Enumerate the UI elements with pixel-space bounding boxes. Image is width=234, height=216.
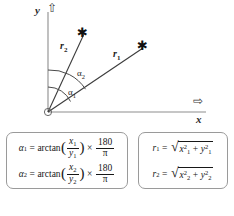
angle-formula-box: α1 = arctan ( x1 y1 ) × 180 π α2 = arcta…: [6, 132, 128, 189]
r1-term2-sub: 1: [208, 148, 211, 155]
alpha2-num-sub: 2: [73, 166, 76, 173]
r1-equals: =: [160, 143, 170, 153]
angle-alpha2-subscript: 2: [82, 73, 85, 80]
formula-alpha2: α2 = arctan ( x2 y2 ) × 180 π: [7, 161, 127, 187]
figure-canvas: y ⇧ x ⇨ r2 r1 α2 α1 ✱ ✱ α1 = arctan ( x1…: [0, 0, 234, 216]
alpha1-factor-den: π: [101, 149, 110, 159]
formula-r1: r1 = √ x21+y21: [139, 135, 227, 161]
alpha1-num-sub: 1: [73, 140, 76, 147]
ray-r1-subscript: 1: [117, 54, 121, 62]
formula-alpha1: α1 = arctan ( x1 y1 ) × 180 π: [7, 135, 127, 161]
r1-radical: √ x21+y21: [170, 141, 213, 154]
alpha1-denominator: y1: [67, 149, 78, 159]
alpha1-den-sub: 1: [73, 151, 76, 158]
polar-coordinate-diagram: y ⇧ x ⇨ r2 r1 α2 α1 ✱ ✱: [0, 0, 234, 130]
r2-equals: =: [160, 169, 170, 179]
r2-radicand: x22+y22: [178, 167, 214, 180]
alpha1-fraction: x1 y1: [66, 137, 79, 159]
r2-term2-sub: 2: [208, 174, 211, 181]
r1-plus: +: [190, 144, 200, 154]
alpha2-fraction: x2 y2: [66, 163, 79, 185]
angle-alpha2-label: α2: [77, 69, 85, 80]
alpha2-factor-num: 180: [96, 164, 114, 175]
ray-r2-subscript: 2: [64, 46, 68, 54]
alpha2-degree-factor: 180 π: [95, 164, 115, 184]
r1-radicand: x21+y21: [178, 141, 214, 154]
ray-r2-label: r2: [60, 41, 67, 54]
alpha1-times: ×: [85, 143, 95, 153]
radius-formula-box: r1 = √ x21+y21 r2 = √ x22+y22: [138, 132, 228, 189]
y-axis-label: y: [35, 5, 40, 16]
diagram-vector-layer: [0, 0, 234, 130]
r2-radical: √ x22+y22: [170, 167, 213, 180]
star-marker-point2: ✱: [77, 26, 88, 39]
alpha1-function: arctan: [37, 143, 61, 153]
x-axis-label: x: [196, 114, 202, 125]
alpha2-factor-den: π: [101, 175, 110, 185]
alpha2-denominator: y2: [67, 175, 78, 185]
alpha1-degree-factor: 180 π: [95, 138, 115, 158]
y-axis-arrow-icon: ⇧: [47, 2, 57, 14]
star-marker-point1: ✱: [137, 39, 148, 52]
ray-r1-label: r1: [113, 49, 120, 62]
alpha2-equals: =: [27, 169, 37, 179]
alpha2-den-sub: 2: [73, 177, 76, 184]
alpha1-factor-num: 180: [96, 138, 114, 149]
formula-row: α1 = arctan ( x1 y1 ) × 180 π α2 = arcta…: [0, 132, 234, 196]
angle-alpha1-subscript: 1: [73, 92, 76, 99]
alpha2-function: arctan: [37, 169, 61, 179]
x-axis-arrow-icon: ⇨: [193, 95, 203, 107]
alpha1-equals: =: [27, 143, 37, 153]
angle-alpha1-label: α1: [68, 88, 76, 99]
formula-r2: r2 = √ x22+y22: [139, 161, 227, 187]
r2-plus: +: [190, 170, 200, 180]
alpha2-times: ×: [85, 169, 95, 179]
